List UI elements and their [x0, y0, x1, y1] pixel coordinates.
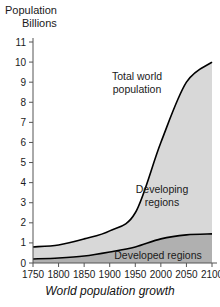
y-axis-tick-label: 2: [20, 217, 26, 228]
x-axis-tick-label: 1800: [47, 269, 70, 280]
total-population-label-line2: population: [113, 83, 162, 95]
y-axis-tick-label: 5: [20, 157, 26, 168]
x-axis-tick-label: 1950: [124, 269, 147, 280]
x-axis-tick-label: 1850: [73, 269, 96, 280]
y-axis-tick-label: 11: [16, 37, 27, 48]
y-axis-tick-label: 4: [20, 177, 26, 188]
developing-regions-label-line2: regions: [145, 196, 179, 208]
x-axis-tick-label: 2000: [150, 269, 173, 280]
y-axis-tick-label: 10: [15, 57, 27, 68]
x-axis-tick-label: 2100: [201, 269, 220, 280]
y-axis-tick-label: 9: [20, 77, 26, 88]
y-axis-tick-label: 8: [20, 97, 26, 108]
developed-regions-label: Developed regions: [114, 249, 202, 261]
x-axis-tick-label: 1900: [99, 269, 122, 280]
y-axis-tick-label: 0: [20, 258, 26, 269]
y-axis: 01234567891011: [15, 37, 33, 269]
figure-caption: World population growth: [0, 284, 220, 298]
population-area-chart: 01234567891011 1750180018501900195020002…: [0, 0, 220, 284]
y-axis-tick-label: 6: [20, 137, 26, 148]
x-axis: 17501800185019001950200020502100: [22, 263, 220, 280]
x-axis-tick-label: 2050: [175, 269, 198, 280]
x-axis-tick-label: 1750: [22, 269, 45, 280]
y-axis-tick-label: 3: [20, 197, 26, 208]
chart-figure: Population Billions 01234567891011 17501…: [0, 0, 220, 307]
total-population-label-line1: Total world: [112, 70, 162, 82]
y-axis-tick-label: 1: [20, 237, 26, 248]
developing-regions-label-line1: Developing: [136, 183, 189, 195]
y-axis-tick-label: 7: [20, 117, 26, 128]
